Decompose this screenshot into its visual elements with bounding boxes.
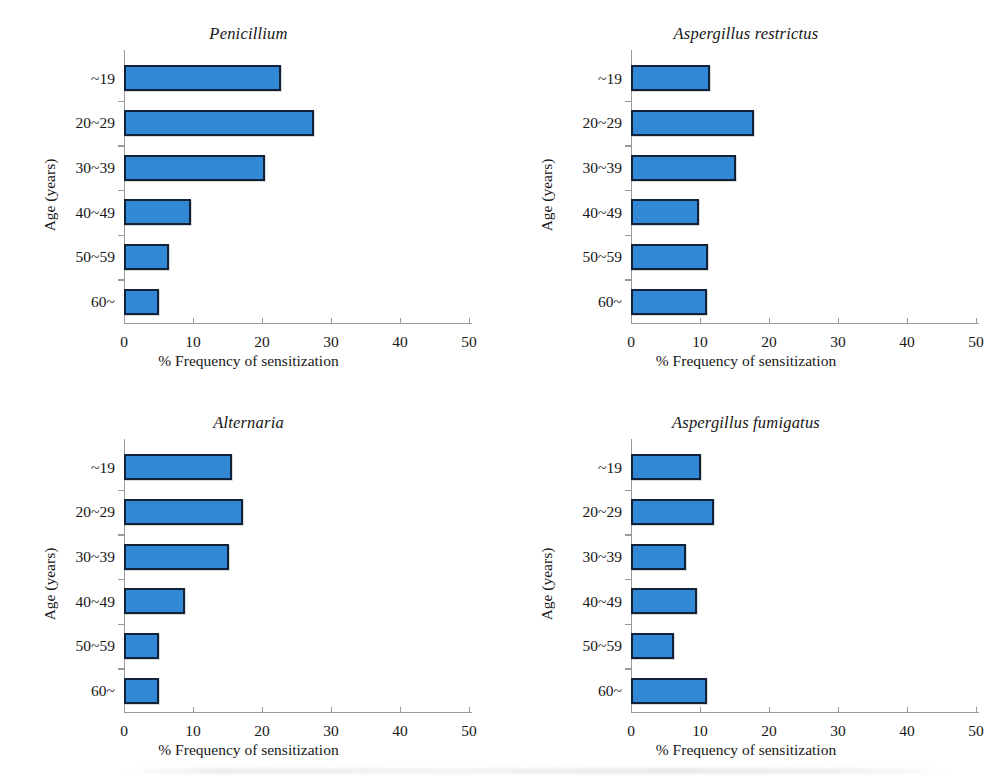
y-axis-tick	[625, 235, 631, 236]
y-axis-category-label: 30~39	[583, 549, 622, 565]
bar	[631, 110, 754, 136]
x-axis-tick	[400, 318, 401, 324]
bar	[631, 155, 736, 181]
y-axis-category-label: 50~59	[583, 638, 622, 654]
x-axis-tick-label: 10	[692, 333, 708, 351]
panel-penicillium: Penicillium Age (years) 01020304050~1920…	[0, 0, 497, 389]
bar-row: 60~	[124, 289, 469, 315]
bar	[124, 454, 232, 480]
bar-row: 20~29	[631, 110, 976, 136]
x-axis-tick-label: 40	[899, 722, 915, 740]
bar-row: 30~39	[631, 155, 976, 181]
x-axis-tick	[193, 707, 194, 713]
bar-row: 20~29	[124, 499, 469, 525]
bar-row: ~19	[631, 454, 976, 480]
x-axis-tick	[331, 707, 332, 713]
x-axis-tick	[262, 707, 263, 713]
bar	[631, 544, 686, 570]
bar	[124, 110, 314, 136]
x-axis-tick	[769, 318, 770, 324]
panel-title: Aspergillus restrictus	[497, 24, 995, 44]
y-axis-category-label: 60~	[598, 294, 622, 310]
plot-area: 01020304050~1920~2930~3940~4950~5960~	[631, 445, 976, 713]
y-axis-category-label: ~19	[91, 71, 115, 87]
bar	[631, 244, 708, 270]
y-axis-category-label: 60~	[91, 683, 115, 699]
plot-area: 01020304050~1920~2930~3940~4950~5960~	[631, 56, 976, 324]
panel-aspergillus-restrictus: Aspergillus restrictus Age (years) 01020…	[497, 0, 995, 389]
x-axis-tick-label: 20	[761, 722, 777, 740]
bar-row: 50~59	[124, 244, 469, 270]
x-axis-tick-label: 50	[968, 722, 984, 740]
figure-four-panel-bar-charts: Penicillium Age (years) 01020304050~1920…	[0, 0, 995, 778]
bar-row: 40~49	[124, 588, 469, 614]
bar-row: 50~59	[631, 633, 976, 659]
x-axis-tick	[631, 318, 632, 324]
y-axis-tick	[625, 534, 631, 535]
panel-title: Penicillium	[0, 24, 557, 44]
bar	[124, 155, 265, 181]
bar-row: 40~49	[124, 199, 469, 225]
y-axis-tick	[625, 279, 631, 280]
y-axis-title: Age (years)	[41, 547, 59, 620]
y-axis-category-label: 30~39	[76, 549, 115, 565]
x-axis-tick	[907, 707, 908, 713]
y-axis-title: Age (years)	[538, 158, 556, 231]
x-axis-tick-label: 50	[968, 333, 984, 351]
x-axis-tick-label: 50	[461, 333, 477, 351]
y-axis-category-label: ~19	[598, 460, 622, 476]
bar-row: 30~39	[124, 155, 469, 181]
bar	[124, 588, 185, 614]
y-axis-tick	[118, 579, 124, 580]
x-axis-tick-label: 10	[692, 722, 708, 740]
x-axis-tick	[838, 707, 839, 713]
y-axis-category-label: 30~39	[76, 160, 115, 176]
x-axis-tick	[700, 318, 701, 324]
bar	[124, 65, 281, 91]
x-axis-title: % Frequency of sensitization	[497, 741, 995, 759]
y-axis-category-label: 20~29	[583, 115, 622, 131]
bar-row: 30~39	[124, 544, 469, 570]
x-axis-tick-label: 10	[185, 333, 201, 351]
y-axis-tick	[118, 279, 124, 280]
x-axis-line	[124, 712, 472, 713]
y-axis-category-label: 40~49	[76, 594, 115, 610]
x-axis-tick	[124, 707, 125, 713]
bar-row: 60~	[124, 678, 469, 704]
bar	[124, 678, 159, 704]
y-axis-category-label: 20~29	[583, 504, 622, 520]
x-axis-tick-label: 30	[323, 333, 339, 351]
x-axis-tick-label: 30	[323, 722, 339, 740]
bar-row: 30~39	[631, 544, 976, 570]
y-axis-title: Age (years)	[538, 547, 556, 620]
x-axis-tick	[469, 318, 470, 324]
x-axis-tick	[262, 318, 263, 324]
x-axis-tick	[400, 707, 401, 713]
x-axis-tick-label: 30	[830, 333, 846, 351]
y-axis-tick	[625, 190, 631, 191]
bar	[124, 244, 169, 270]
y-axis-tick	[625, 101, 631, 102]
x-axis-tick-label: 20	[254, 333, 270, 351]
bar	[631, 65, 710, 91]
bar	[631, 499, 714, 525]
bar-row: 50~59	[124, 633, 469, 659]
bar-row: 60~	[631, 678, 976, 704]
bar	[124, 199, 191, 225]
y-axis-tick	[625, 145, 631, 146]
x-axis-tick	[469, 707, 470, 713]
bar	[124, 633, 159, 659]
y-axis-category-label: 40~49	[583, 205, 622, 221]
x-axis-tick	[907, 318, 908, 324]
x-axis-line	[631, 712, 979, 713]
bar-row: 40~49	[631, 199, 976, 225]
bar	[124, 499, 243, 525]
bar	[631, 678, 707, 704]
x-axis-tick-label: 40	[392, 333, 408, 351]
x-axis-line	[631, 323, 979, 324]
bar-row: ~19	[631, 65, 976, 91]
x-axis-tick	[124, 318, 125, 324]
y-axis-tick	[625, 579, 631, 580]
plot-area: 01020304050~1920~2930~3940~4950~5960~	[124, 56, 469, 324]
y-axis-tick	[625, 490, 631, 491]
